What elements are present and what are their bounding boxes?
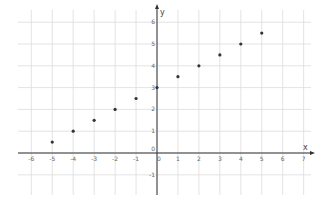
data-point	[239, 42, 242, 45]
data-point	[155, 86, 158, 89]
x-axis-arrow-icon	[310, 151, 315, 155]
x-tick-label: 2	[197, 155, 201, 162]
y-tick-label: 3	[151, 84, 155, 91]
y-tick-label: 2	[151, 105, 155, 112]
x-tick-label: 1	[176, 155, 180, 162]
tick-labels: -6-5-4-3-2-101234567-10123456	[28, 18, 305, 178]
y-tick-label: 4	[151, 62, 155, 69]
y-tick-label: 1	[151, 127, 155, 134]
data-point	[114, 108, 117, 111]
y-axis-label: y	[160, 8, 165, 17]
data-point	[72, 130, 75, 133]
data-point	[197, 64, 200, 67]
x-tick-label: 3	[218, 155, 222, 162]
x-tick-label: 7	[302, 155, 306, 162]
x-tick-label: -5	[49, 155, 55, 162]
data-point	[176, 75, 179, 78]
x-tick-label: 6	[281, 155, 285, 162]
y-tick-label: -1	[149, 171, 155, 178]
data-point	[218, 53, 221, 56]
axes: x y	[18, 4, 315, 195]
data-point	[93, 119, 96, 122]
y-tick-label: 0	[151, 145, 155, 152]
x-tick-label: -6	[28, 155, 34, 162]
y-tick-label: 6	[151, 18, 155, 25]
y-axis-arrow-icon	[155, 4, 159, 9]
y-tick-label: 5	[151, 40, 155, 47]
x-tick-label: 5	[260, 155, 264, 162]
scatter-plot: x y -6-5-4-3-2-101234567-10123456	[0, 0, 323, 198]
x-tick-label: -4	[70, 155, 76, 162]
x-axis-label: x	[303, 143, 308, 152]
x-tick-label: -3	[91, 155, 97, 162]
x-tick-label: -1	[133, 155, 139, 162]
x-tick-label: -2	[112, 155, 118, 162]
data-point	[260, 31, 263, 34]
grid-lines	[18, 10, 311, 195]
x-tick-label: 4	[239, 155, 243, 162]
data-point	[134, 97, 137, 100]
x-tick-label: 0	[157, 155, 161, 162]
data-point	[51, 141, 54, 144]
